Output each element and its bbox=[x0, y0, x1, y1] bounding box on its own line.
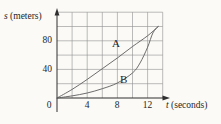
x-tick-12: 12 bbox=[140, 100, 155, 110]
y-tick-80: 80 bbox=[36, 35, 52, 45]
x-tick-0: 0 bbox=[44, 100, 54, 110]
x-axis-label: t (seconds) bbox=[166, 100, 207, 110]
y-tick-40: 40 bbox=[36, 64, 52, 74]
x-tick-8: 8 bbox=[112, 100, 122, 110]
y-axis-unit: (meters) bbox=[8, 11, 42, 21]
curve-b-label: B bbox=[120, 74, 127, 85]
x-axis-unit: (seconds) bbox=[169, 100, 208, 110]
distance-time-graph: s (meters) t (seconds) 80 40 0 4 8 12 A … bbox=[0, 0, 221, 124]
curve-a-label: A bbox=[112, 38, 120, 49]
x-tick-4: 4 bbox=[82, 100, 92, 110]
y-axis-label: s (meters) bbox=[4, 11, 42, 21]
